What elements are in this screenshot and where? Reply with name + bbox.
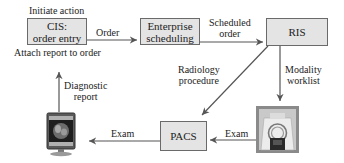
label-scheduled-line2: order	[209, 28, 251, 39]
node-enterprise-scheduling[interactable]: Enterprise scheduling	[140, 18, 200, 45]
node-pacs-label: PACS	[170, 130, 197, 142]
label-diagnostic-line1: Diagnostic	[64, 80, 107, 91]
node-cis[interactable]: CIS: order entry	[27, 18, 87, 45]
label-radiology-line1: Radiology	[178, 64, 220, 75]
label-order: Order	[96, 27, 119, 38]
label-scheduled-order: Scheduled order	[209, 17, 251, 39]
node-ris-label: RIS	[288, 26, 305, 38]
label-diagnostic-report: Diagnostic report	[64, 80, 107, 102]
mri-scanner-icon[interactable]	[256, 106, 299, 153]
node-enterprise-line1: Enterprise	[147, 20, 192, 32]
node-cis-line2: order entry	[33, 32, 82, 44]
label-exam-to-pacs: Exam	[225, 128, 248, 139]
label-attach-report: Attach report to order	[14, 47, 101, 58]
label-initiate-action: Initiate action	[29, 5, 84, 16]
label-modality-worklist: Modality worklist	[285, 64, 322, 86]
node-ris[interactable]: RIS	[266, 18, 328, 46]
label-modality-line1: Modality	[285, 64, 322, 75]
label-scheduled-line1: Scheduled	[209, 17, 251, 28]
label-radiology-procedure: Radiology procedure	[178, 64, 220, 86]
label-exam-to-monitor: Exam	[111, 128, 134, 139]
node-enterprise-line2: scheduling	[146, 32, 194, 44]
node-cis-line1: CIS:	[47, 20, 67, 32]
monitor-icon[interactable]	[46, 112, 78, 157]
node-pacs[interactable]: PACS	[160, 121, 207, 151]
label-radiology-line2: procedure	[178, 75, 220, 86]
label-diagnostic-line2: report	[64, 91, 107, 102]
label-modality-line2: worklist	[285, 75, 322, 86]
